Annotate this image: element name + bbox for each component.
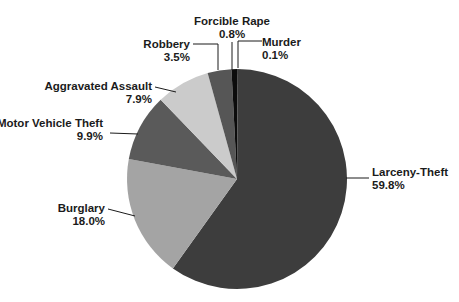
slice-label-burglary: Burglary 18.0% — [58, 202, 105, 228]
slice-percent: 59.8% — [372, 179, 448, 192]
slice-name: Aggravated Assault — [44, 80, 152, 93]
slice-label-robbery: Robbery 3.5% — [143, 38, 190, 64]
leader-line-motor-vehicle-theft — [110, 133, 138, 134]
slice-percent: 9.9% — [0, 130, 103, 143]
slice-name: Burglary — [58, 202, 105, 215]
leader-line-aggravated-assault — [155, 87, 176, 92]
leader-line-murder — [238, 41, 262, 68]
slice-percent: 0.8% — [167, 28, 297, 41]
slice-percent: 18.0% — [58, 215, 105, 228]
leader-line-robbery — [193, 44, 218, 70]
leader-line-burglary — [108, 209, 135, 216]
slice-label-motor-vehicle-theft: Motor Vehicle Theft 9.9% — [0, 117, 103, 143]
slice-label-larceny-theft: Larceny-Theft 59.8% — [372, 166, 448, 192]
slice-name: Forcible Rape — [167, 15, 297, 28]
slice-name: Larceny-Theft — [372, 166, 448, 179]
pie-chart — [0, 0, 459, 302]
slice-percent: 3.5% — [143, 51, 190, 64]
slice-percent: 7.9% — [44, 93, 152, 106]
slice-name: Motor Vehicle Theft — [0, 117, 103, 130]
slice-percent: 0.1% — [262, 49, 301, 62]
pie-slices — [127, 69, 347, 289]
crime-pie-chart-figure: Murder 0.1% Larceny-Theft 59.8% Burglary… — [0, 0, 459, 302]
slice-label-aggravated-assault: Aggravated Assault 7.9% — [44, 80, 152, 106]
slice-label-forcible-rape: Forcible Rape 0.8% — [167, 15, 297, 41]
